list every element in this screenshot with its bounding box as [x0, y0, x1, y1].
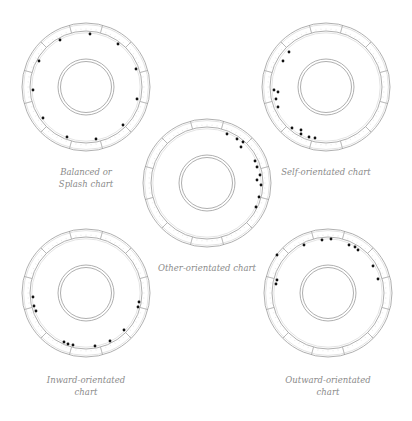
ring-tick	[33, 317, 34, 318]
data-dot	[236, 138, 239, 141]
data-dot	[288, 51, 291, 54]
data-dot	[33, 305, 36, 308]
data-dot	[94, 345, 97, 348]
ring-tick	[259, 207, 260, 208]
data-dot	[122, 124, 125, 127]
ring-inner-edge	[30, 31, 142, 143]
ring-tick	[110, 240, 111, 241]
data-dot	[242, 141, 245, 144]
ring-tick	[365, 337, 366, 338]
ring-tick	[154, 207, 155, 208]
data-dot	[35, 310, 38, 313]
ring-tick	[38, 53, 39, 54]
ring-tick	[123, 42, 124, 43]
ring-tick	[357, 242, 358, 243]
ring-tick	[275, 116, 276, 117]
ring-tick	[61, 34, 62, 35]
data-dot	[72, 344, 75, 347]
ring-tick	[290, 337, 291, 338]
data-dot	[256, 179, 259, 182]
ring-tick	[359, 39, 360, 40]
ring-tick	[257, 212, 258, 213]
caption-line: chart	[285, 386, 370, 398]
ring-tick	[378, 111, 379, 112]
ring-tick	[162, 220, 163, 221]
ring-tick	[370, 124, 371, 125]
ring-tick	[359, 134, 360, 135]
ring-tick	[257, 154, 258, 155]
data-dot	[300, 129, 303, 132]
data-dot	[256, 166, 259, 169]
ring-tick	[259, 158, 260, 159]
data-dot	[59, 39, 62, 42]
ring-tick	[33, 62, 34, 63]
ring-tick	[251, 145, 252, 146]
data-dot	[277, 91, 280, 94]
ring-tick	[169, 138, 170, 139]
data-dot	[136, 98, 139, 101]
ring-tick	[123, 337, 124, 338]
ring-tick	[182, 235, 183, 236]
ring-tick	[52, 340, 53, 341]
ring-tick	[52, 245, 53, 246]
caption-line: Outward-orientated	[285, 374, 370, 386]
ring-tick	[254, 149, 255, 150]
ring-tick	[173, 135, 174, 136]
ring-tick	[38, 259, 39, 260]
segment-divider	[366, 127, 372, 133]
ring-tick	[290, 248, 291, 249]
ring-tick	[350, 139, 351, 140]
ring-tick	[363, 42, 364, 43]
ring-tick	[182, 130, 183, 131]
ring-tick	[275, 268, 276, 269]
ring-tick	[303, 345, 304, 346]
ring-tick	[275, 317, 276, 318]
data-dot	[260, 184, 263, 187]
caption-inward: Inward-orientated chart	[47, 374, 125, 398]
data-dot	[275, 98, 278, 101]
hub-outer-circle	[58, 59, 114, 115]
ring-tick	[138, 317, 139, 318]
ring-tick	[352, 345, 353, 346]
hub-outer-circle	[179, 155, 235, 211]
ring-tick	[278, 53, 279, 54]
ring-tick	[35, 264, 36, 265]
ring-tick	[136, 264, 137, 265]
ring-tick	[297, 36, 298, 37]
ring-tick	[136, 116, 137, 117]
chart-other	[143, 119, 271, 247]
hub-inner-circle	[182, 158, 233, 209]
ring-tick	[244, 227, 245, 228]
data-dot	[258, 196, 261, 199]
ring-tick	[240, 135, 241, 136]
ring-tick	[370, 49, 371, 50]
ring-tick	[299, 343, 300, 344]
ring-tick	[303, 240, 304, 241]
ring-tick	[130, 49, 131, 50]
hub-outer-circle	[298, 59, 354, 115]
ring-tick	[231, 235, 232, 236]
ring-tick	[41, 124, 42, 125]
hub-inner-circle	[301, 62, 352, 113]
dot-track	[153, 129, 261, 237]
ring-inner-edge	[270, 31, 382, 143]
ring-tick	[378, 62, 379, 63]
ring-tick	[361, 245, 362, 246]
caption-balanced: Balanced or Splash chart	[59, 166, 113, 190]
ring-tick	[301, 34, 302, 35]
data-dot	[330, 238, 333, 241]
ring-tick	[136, 58, 137, 59]
ring-tick	[378, 322, 379, 323]
segment-divider	[126, 248, 132, 254]
ring-tick	[280, 259, 281, 260]
ring-tick	[41, 49, 42, 50]
segment-divider	[126, 42, 132, 48]
data-dot	[66, 136, 69, 139]
ring-tick	[52, 39, 53, 40]
ring-tick	[236, 233, 237, 234]
ring-tick	[115, 242, 116, 243]
ring-tick	[173, 230, 174, 231]
data-dot	[277, 106, 280, 109]
data-dot	[300, 133, 303, 136]
ring-tick	[292, 134, 293, 135]
